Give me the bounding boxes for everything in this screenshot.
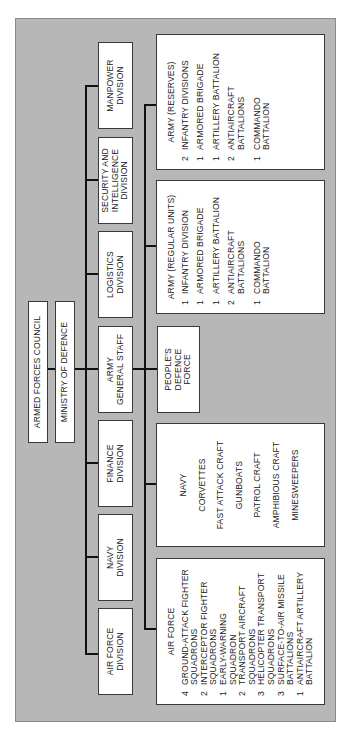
army-reserves-box: ARMY (RESERVES) 2INFANTRY DIVISIONS 1ARM…: [156, 34, 325, 170]
stub-finance-division: [85, 462, 98, 464]
list-item: 3HELICOPTER TRANSPORT SQUADRONS: [257, 567, 276, 696]
logistics-division-box: LOGISTICSDIVISION: [98, 231, 133, 318]
armed-forces-council-label: ARMED FORCES COUNCIL: [33, 316, 43, 428]
list-item: PATROL CRAFT: [253, 432, 263, 538]
list-item: 1COMMANDO BATTALION: [253, 189, 272, 305]
manpower-division-line2: DIVISION: [116, 59, 126, 111]
stub-security-division: [85, 179, 98, 181]
stub-navy-division: [85, 556, 98, 558]
list-item: FAST ATTACK CRAFT: [216, 432, 226, 538]
logistics-division-line2: DIVISION: [116, 251, 126, 298]
navy-title: NAVY: [179, 432, 189, 538]
list-item: 1EARLY-WARNING SQUADRON: [219, 567, 238, 696]
navy-division-line2: DIVISION: [116, 538, 126, 577]
list-item: 2ANTIAIRCRAFT BATTALIONS: [227, 189, 246, 305]
list-item: 1ARMORED BRIGADE: [196, 43, 206, 161]
list-item: 4GROUND-ATTACK FIGHTER SQUADRONS: [181, 567, 200, 696]
stub-manpower-division: [85, 85, 98, 87]
stub-army-regular: [144, 245, 156, 247]
army-regular-box: ARMY (REGULAR UNITS) 1INFANTRY DIVISION …: [156, 180, 325, 314]
list-item: MINESWEEPERS: [291, 432, 301, 538]
org-chart: ARMED FORCES COUNCIL MINISTRY OF DEFENCE…: [0, 0, 351, 741]
list-item: CORVETTES: [198, 432, 208, 538]
army-general-staff-box: ARMYGENERAL STAFF: [98, 326, 133, 413]
navy-division-box: NAVYDIVISION: [98, 514, 133, 601]
finance-division-box: FINANCEDIVISION: [98, 420, 133, 507]
security-division-line3: DIVISION: [120, 148, 130, 213]
stub-air-force: [144, 628, 156, 630]
connector-divisions-bus: [85, 85, 87, 655]
security-intelligence-division-box: SECURITY ANDINTELLIGENCEDIVISION: [98, 137, 133, 224]
list-item: 2INFANTRY DIVISIONS: [181, 43, 191, 161]
ministry-of-defence-label: MINISTRY OF DEFENCE: [60, 322, 70, 422]
list-item: 1ANTIAIRCRAFT ARTILLERY BATTALION: [296, 567, 315, 696]
army-general-staff-line2: GENERAL STAFF: [116, 334, 126, 405]
manpower-division-box: MANPOWERDIVISION: [98, 42, 133, 129]
list-item: 2INTERCEPTOR FIGHTER SQUADRONS: [200, 567, 219, 696]
stub-logistics-division: [85, 273, 98, 275]
list-item: AMPHIBIOUS CRAFT: [272, 432, 282, 538]
army-regular-title: ARMY (REGULAR UNITS): [167, 189, 177, 305]
list-item: GUNBOATS: [235, 432, 245, 538]
air-force-division-line2: DIVISION: [116, 628, 126, 676]
stub-army-reserves: [144, 104, 156, 106]
armed-forces-council-box: ARMED FORCES COUNCIL: [28, 301, 48, 443]
list-item: 1ARTILLERY BATTALION: [212, 43, 222, 161]
connector-forces-bus: [144, 104, 146, 630]
air-force-box: AIR FORCE 4GROUND-ATTACK FIGHTER SQUADRO…: [156, 558, 325, 705]
list-item: 2ANTIAIRCRAFT BATTALIONS: [227, 43, 246, 161]
air-force-title: AIR FORCE: [167, 567, 177, 696]
list-item: 1INFANTRY DIVISION: [181, 189, 191, 305]
list-item: 1ARMORED BRIGADE: [196, 189, 206, 305]
list-item: 2TRANSPORT AIRCRAFT SQUADRONS: [238, 567, 257, 696]
list-item: 1ARTILLERY BATTALION: [212, 189, 222, 305]
list-item: 1COMMANDO BATTALION: [253, 43, 272, 161]
stub-air-force-division: [85, 653, 98, 655]
army-reserves-title: ARMY (RESERVES): [167, 43, 177, 161]
air-force-division-box: AIR FORCEDIVISION: [98, 608, 133, 695]
list-item: 3SURFACE-TO-AIR MISSILE BATTALIONS: [277, 567, 296, 696]
stub-navy: [144, 483, 156, 485]
finance-division-line2: DIVISION: [116, 444, 126, 483]
pdf-line3: FORCE: [183, 348, 193, 391]
ministry-of-defence-box: MINISTRY OF DEFENCE: [55, 301, 75, 443]
peoples-defence-force-box: PEOPLE'SDEFENCEFORCE: [157, 326, 200, 413]
navy-box: NAVY CORVETTES FAST ATTACK CRAFT GUNBOAT…: [156, 423, 325, 547]
